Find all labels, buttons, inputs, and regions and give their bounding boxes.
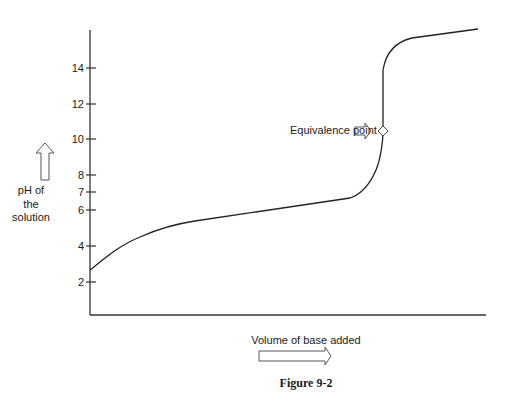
x-right-arrow-icon bbox=[259, 347, 331, 365]
y-axis-label-line: pH of bbox=[2, 184, 60, 198]
y-up-arrow-icon bbox=[36, 143, 54, 180]
y-axis-label-line: solution bbox=[2, 211, 60, 225]
y-axis-label-line: the bbox=[2, 198, 60, 212]
y-tick-label: 14 bbox=[60, 62, 84, 74]
y-tick-label: 6 bbox=[60, 204, 84, 216]
y-tick-label: 2 bbox=[60, 276, 84, 288]
y-tick-label: 7 bbox=[60, 186, 84, 198]
titration-curve bbox=[90, 29, 478, 270]
y-tick-label: 4 bbox=[60, 240, 84, 252]
y-tick-label: 12 bbox=[60, 98, 84, 110]
y-axis-label: pH of the solution bbox=[2, 184, 60, 225]
y-ticks bbox=[86, 68, 96, 282]
y-tick-label: 10 bbox=[60, 133, 84, 145]
x-axis-label: Volume of base added bbox=[200, 334, 412, 346]
y-tick-label: 8 bbox=[60, 169, 84, 181]
equivalence-point-marker bbox=[378, 126, 388, 136]
figure-caption: Figure 9-2 bbox=[200, 376, 412, 391]
equivalence-point-label: Equivalence point bbox=[290, 124, 377, 136]
